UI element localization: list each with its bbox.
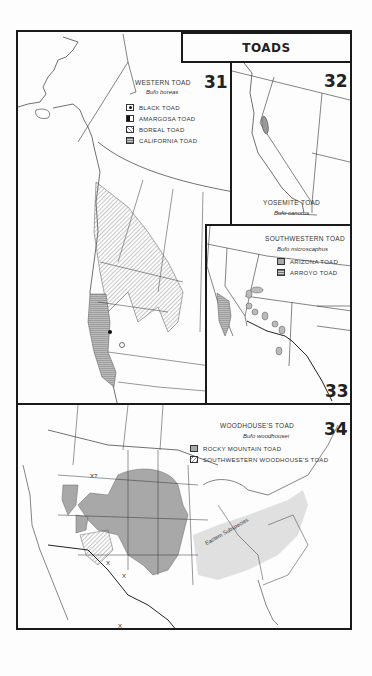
species-name-southwestern-toad: SOUTHWESTERN TOAD [265, 235, 345, 242]
map-number-32: 32 [324, 71, 348, 91]
amargosa-toad-marker [120, 343, 125, 348]
legend-woodhouses-toad: ROCKY MOUNTAIN TOAD SOUTHWESTERN WOODHOU… [190, 443, 328, 465]
map-number-34: 34 [324, 419, 348, 439]
woodhouses-toad-map [18, 405, 352, 630]
legend-item-arizona-toad: ARIZONA TOAD [277, 256, 338, 267]
uncertain-occurrence-marker: X? [90, 473, 97, 479]
legend-item-black-toad: BLACK TOAD [126, 102, 197, 113]
western-toad-map [18, 32, 232, 405]
map-panel-southwestern-toad: SOUTHWESTERN TOAD Bufo microscaphus ARIZ… [205, 224, 352, 405]
legend-item-rocky-mountain-toad: ROCKY MOUNTAIN TOAD [190, 443, 328, 454]
scientific-name-bufo-microscaphus: Bufo microscaphus [277, 246, 328, 252]
species-name-woodhouses-toad: WOODHOUSE'S TOAD [220, 422, 294, 429]
cross-hatch-swatch-icon [126, 137, 134, 144]
diagonal-hatch-swatch-icon [190, 456, 198, 463]
southwestern-toad-map [207, 226, 352, 405]
legend-item-amargosa-toad: AMARGOSA TOAD [126, 113, 197, 124]
dot-in-square-icon [126, 104, 134, 111]
stipple-swatch-icon [277, 258, 285, 265]
legend-southwestern-toad: ARIZONA TOAD ARROYO TOAD [277, 256, 338, 278]
black-toad-marker [108, 330, 112, 334]
half-filled-circle-icon [126, 115, 134, 122]
map-number-31: 31 [204, 72, 228, 92]
map-panel-western-toad: WESTERN TOAD Bufo boreas 31 BLACK TOAD A… [16, 30, 232, 405]
map-number-33: 33 [325, 381, 349, 401]
species-name-western-toad: WESTERN TOAD [135, 79, 191, 86]
page-title-box: TOADS [181, 32, 352, 63]
isolated-occurrence-marker: X [106, 560, 110, 566]
eastern-subspecies-range [193, 490, 308, 580]
cross-hatch-swatch-icon [277, 269, 285, 276]
scientific-name-bufo-woodhousei: Bufo woodhousei [243, 433, 289, 439]
isolated-occurrence-marker: X [118, 623, 122, 629]
legend-item-southwestern-woodhouses-toad: SOUTHWESTERN WOODHOUSE'S TOAD [190, 454, 328, 465]
yosemite-toad-range [260, 116, 269, 135]
page-title: TOADS [242, 41, 290, 55]
legend-item-arroyo-toad: ARROYO TOAD [277, 267, 338, 278]
scientific-name-bufo-canorus: Bufo canorus [274, 210, 309, 216]
map-panel-woodhouses-toad: 34 WOODHOUSE'S TOAD Bufo woodhousei ROCK… [16, 403, 352, 630]
diagonal-hatch-swatch-icon [126, 126, 134, 133]
map-panel-yosemite-toad: 32 YOSEMITE TOAD Bufo canorus [230, 61, 352, 226]
stipple-swatch-icon [190, 445, 198, 452]
isolated-occurrence-marker: X [122, 573, 126, 579]
arroyo-toad-range [217, 293, 231, 336]
legend-western-toad: BLACK TOAD AMARGOSA TOAD BOREAL TOAD CAL… [126, 102, 197, 146]
species-name-yosemite-toad: YOSEMITE TOAD [263, 199, 320, 206]
legend-item-california-toad: CALIFORNIA TOAD [126, 135, 197, 146]
scientific-name-bufo-boreas: Bufo boreas [146, 89, 178, 95]
legend-item-boreal-toad: BOREAL TOAD [126, 124, 197, 135]
